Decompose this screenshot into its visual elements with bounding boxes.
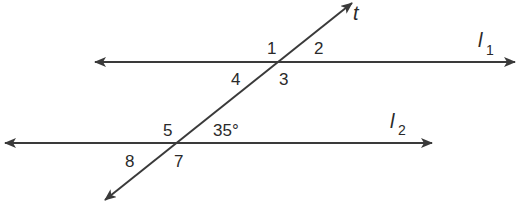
angle-5-label: 5 xyxy=(163,121,172,140)
label-l2-subscript: 2 xyxy=(398,122,406,138)
transversal-t xyxy=(105,3,352,200)
diagram-canvas: t l 1 l 2 1 2 3 4 5 35° 7 8 xyxy=(0,0,517,206)
angle-6-label: 35° xyxy=(213,121,239,140)
label-l1: l xyxy=(478,29,483,51)
angle-8-label: 8 xyxy=(125,152,134,171)
angle-7-label: 7 xyxy=(174,152,183,171)
angle-1-label: 1 xyxy=(267,39,276,58)
label-l1-subscript: 1 xyxy=(486,42,494,58)
angle-3-label: 3 xyxy=(279,70,288,89)
label-t: t xyxy=(353,2,360,24)
label-l2: l xyxy=(390,110,395,132)
angle-2-label: 2 xyxy=(314,39,323,58)
angle-4-label: 4 xyxy=(231,70,240,89)
